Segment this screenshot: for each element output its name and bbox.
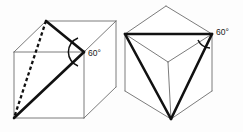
geometry-figure: 60° 60° xyxy=(0,0,243,132)
left-cube-angle-label: 60° xyxy=(88,48,101,58)
left-cube-diagram: 60° xyxy=(14,21,116,118)
right-cube-diagram: 60° xyxy=(125,6,229,119)
right-cube-angle-label: 60° xyxy=(216,27,229,37)
figure-container: 60° 60° xyxy=(0,0,243,132)
